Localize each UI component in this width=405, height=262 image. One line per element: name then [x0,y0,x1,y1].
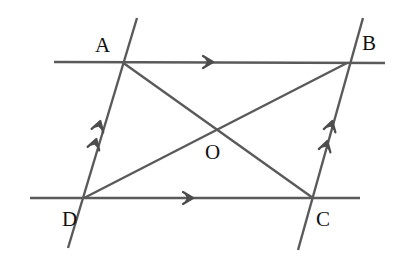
geometry-figure: ABCDO [0,0,405,262]
vertex-label-b: B [362,31,376,55]
vertex-label-a: A [95,33,111,57]
vertex-label-d: D [62,207,77,231]
vertex-label-c: C [316,207,330,231]
top-parallel-line [54,62,385,63]
vertex-label-o: O [205,140,220,164]
figure-background [0,0,405,262]
figure-canvas: ABCDO [0,0,405,262]
